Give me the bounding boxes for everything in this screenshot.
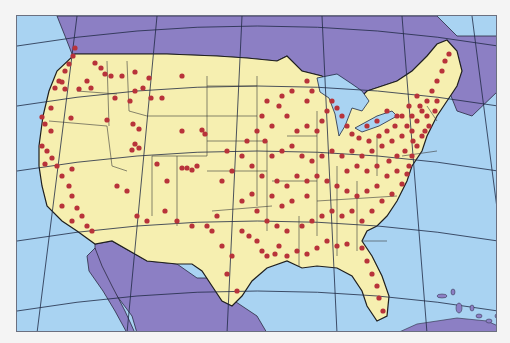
us-map	[17, 16, 497, 332]
map-frame	[16, 15, 497, 332]
